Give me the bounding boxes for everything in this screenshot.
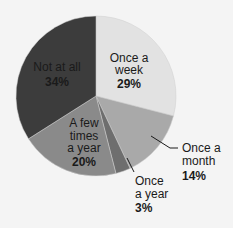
pie-chart: Once a week 29% Once a month 14% Once a … [0, 0, 233, 228]
svg-text:20%: 20% [72, 155, 96, 169]
svg-text:a year: a year [67, 141, 100, 155]
svg-text:week: week [114, 63, 144, 77]
slice-label-a-few-times-a-year: A few times a year 20% [67, 116, 100, 169]
svg-text:3%: 3% [135, 201, 153, 215]
svg-text:Not at all: Not at all [33, 60, 80, 74]
svg-text:Once: Once [135, 174, 164, 188]
svg-text:14%: 14% [182, 169, 206, 183]
svg-text:29%: 29% [117, 77, 141, 91]
svg-text:Once a: Once a [182, 141, 221, 155]
svg-text:A few: A few [69, 116, 99, 130]
svg-text:a year: a year [135, 187, 168, 201]
slice-label-once-a-year: Once a year 3% [135, 174, 168, 215]
slice-label-once-a-month: Once a month 14% [182, 141, 221, 183]
svg-text:month: month [182, 154, 215, 168]
svg-text:34%: 34% [45, 75, 69, 89]
